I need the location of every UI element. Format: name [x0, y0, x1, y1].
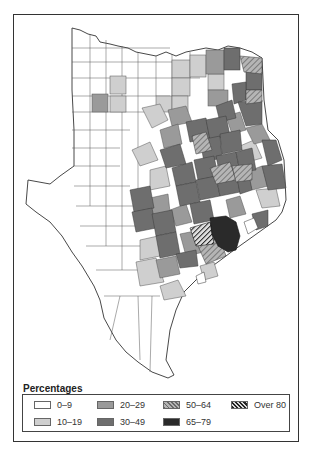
swatch-20-29	[97, 401, 114, 409]
legend-label: 10–19	[57, 417, 82, 427]
swatch-50-64	[163, 401, 180, 409]
legend-item-50-64: 50–64	[163, 400, 211, 410]
legend-label: 65–79	[186, 417, 211, 427]
legend-label: 20–29	[120, 400, 145, 410]
legend-label: Over 80	[254, 400, 286, 410]
legend-item-30-49: 30–49	[97, 417, 145, 427]
swatch-30-49	[97, 418, 114, 426]
legend-label: 30–49	[120, 417, 145, 427]
swatch-10-19	[34, 418, 51, 426]
swatch-65-79	[163, 418, 180, 426]
legend: 0–9 10–19 20–29 30–49 50–64 65–79 Over 8…	[22, 394, 290, 432]
legend-label: 0–9	[57, 400, 72, 410]
legend-title: Percentages	[23, 383, 82, 394]
legend-label: 50–64	[186, 400, 211, 410]
legend-item-65-79: 65–79	[163, 417, 211, 427]
swatch-0-9	[34, 401, 51, 409]
swatch-over-80	[231, 401, 248, 409]
legend-item-0-9: 0–9	[34, 400, 72, 410]
legend-item-over-80: Over 80	[231, 400, 286, 410]
legend-item-20-29: 20–29	[97, 400, 145, 410]
legend-item-10-19: 10–19	[34, 417, 82, 427]
